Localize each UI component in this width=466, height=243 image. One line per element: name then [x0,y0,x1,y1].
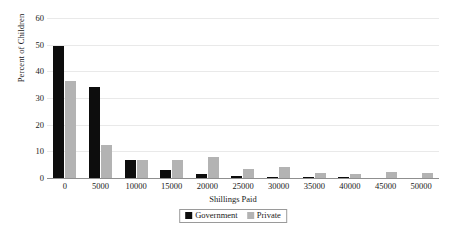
bar-group [47,18,83,178]
bar-group [118,18,154,178]
y-axis-tick-label: 10 [14,147,44,156]
legend-swatch-private-icon [247,212,254,219]
y-axis-tick-label: 20 [14,121,44,130]
plot-area [47,18,439,178]
x-axis-title: Shillings Paid [0,194,466,204]
bar-private [243,169,254,178]
y-axis-tick-label: 40 [14,67,44,76]
bar-group [368,18,404,178]
bar-group [83,18,119,178]
bar-group [225,18,261,178]
bar-group [332,18,368,178]
bar-private [208,157,219,178]
legend-swatch-government-icon [185,212,192,219]
bar-government [53,46,64,178]
chart-figure: Percent of Children Shillings Paid Gover… [0,0,466,243]
legend-label-government: Government [195,211,238,220]
legend-entry-private: Private [247,211,281,220]
chart-legend: Government Private [179,209,287,223]
bar-private [65,81,76,178]
bar-group [261,18,297,178]
y-axis-tick-label: 30 [14,94,44,103]
bar-private [172,160,183,178]
bar-group [403,18,439,178]
x-axis-line [47,178,439,179]
bar-group [190,18,226,178]
bar-private [279,167,290,178]
bar-private [101,145,112,178]
bar-private [137,160,148,178]
legend-entry-government: Government [185,211,238,220]
bar-group [154,18,190,178]
bar-government [160,170,171,178]
y-axis-tick-label: 60 [14,14,44,23]
y-axis-tick-label: 50 [14,41,44,50]
bar-government [89,87,100,178]
x-axis-tick-label: 50000 [391,182,451,191]
legend-label-private: Private [257,211,281,220]
bar-government [125,160,136,178]
bar-group [296,18,332,178]
